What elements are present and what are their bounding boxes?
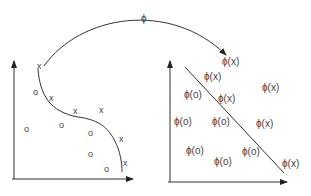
phi-x-point: ϕ(x)	[256, 119, 273, 129]
phi-o-point: ϕ(o)	[242, 147, 260, 157]
x-point: x	[37, 62, 42, 71]
x-point: x	[123, 159, 128, 168]
phi-x-point: ϕ(x)	[262, 83, 279, 93]
phi-o-point: ϕ(o)	[174, 117, 192, 127]
diagram-canvas	[0, 0, 311, 196]
x-point: x	[73, 107, 78, 116]
input-space-axes	[12, 61, 133, 179]
phi-x-point: ϕ(x)	[204, 72, 221, 82]
x-point: x	[49, 94, 54, 103]
phi-o-point: ϕ(o)	[214, 157, 232, 167]
o-point: o	[59, 121, 64, 130]
x-point: x	[99, 106, 104, 115]
phi-x-point: ϕ(x)	[282, 159, 299, 169]
phi-o-point: ϕ(o)	[184, 90, 202, 100]
nonlinear-decision-boundary	[38, 69, 122, 172]
phi-x-point: ϕ(x)	[218, 94, 235, 104]
phi-mapping-label: ϕ	[141, 14, 147, 24]
o-point: o	[24, 125, 29, 134]
phi-x-point: ϕ(x)	[222, 57, 239, 67]
phi-o-point: ϕ(o)	[212, 117, 230, 127]
o-point: o	[88, 150, 93, 159]
o-point: o	[33, 88, 38, 97]
x-point: x	[119, 135, 124, 144]
o-point: o	[104, 165, 109, 174]
o-point: o	[88, 129, 93, 138]
phi-o-point: ϕ(o)	[186, 146, 204, 156]
phi-mapping-arrow	[44, 20, 226, 66]
